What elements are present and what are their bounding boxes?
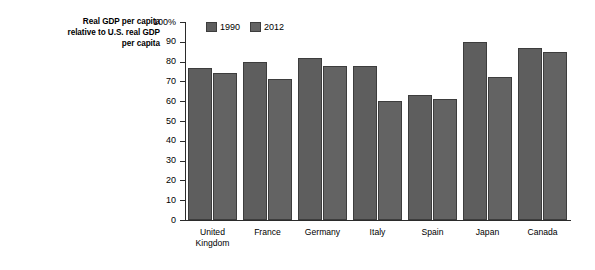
x-axis-label-line: Kingdom — [173, 238, 253, 249]
bar-chart: Real GDP per capita relative to U.S. rea… — [0, 0, 595, 270]
chart-title: Real GDP per capita relative to U.S. rea… — [8, 16, 160, 50]
bar-japan-1990 — [463, 42, 487, 220]
x-axis-label-line: Canada — [503, 227, 583, 238]
bar-japan-2012 — [488, 77, 512, 220]
chart-title-line-1: Real GDP per capita — [8, 16, 160, 27]
bar-spain-2012 — [433, 99, 457, 220]
y-axis-label: 70 — [166, 77, 176, 86]
bar-united-kingdom-2012 — [213, 73, 237, 220]
y-axis-label: 80 — [166, 57, 176, 66]
bar-germany-2012 — [323, 66, 347, 220]
bar-spain-1990 — [408, 95, 432, 220]
plot-area — [185, 22, 570, 220]
bar-italy-1990 — [353, 66, 377, 220]
chart-title-line-2: relative to U.S. real GDP — [8, 27, 160, 38]
y-axis-label: 100% — [153, 18, 176, 27]
bar-canada-2012 — [543, 52, 567, 220]
y-axis-label: 50 — [166, 117, 176, 126]
bar-canada-1990 — [518, 48, 542, 220]
x-axis-label-canada: Canada — [503, 227, 583, 238]
bar-france-2012 — [268, 79, 292, 220]
bar-germany-1990 — [298, 58, 322, 220]
chart-title-line-3: per capita — [8, 38, 160, 49]
y-axis-label: 40 — [166, 136, 176, 145]
bar-italy-2012 — [378, 101, 402, 220]
y-axis-label: 20 — [166, 176, 176, 185]
bar-france-1990 — [243, 62, 267, 220]
y-axis-label: 90 — [166, 37, 176, 46]
y-axis-tick — [180, 220, 185, 221]
bar-united-kingdom-1990 — [188, 68, 212, 220]
y-axis-label: 30 — [166, 156, 176, 165]
y-axis-label: 10 — [166, 196, 176, 205]
y-axis-label: 60 — [166, 97, 176, 106]
y-axis-label: 0 — [171, 216, 176, 225]
x-axis-line — [185, 220, 571, 221]
